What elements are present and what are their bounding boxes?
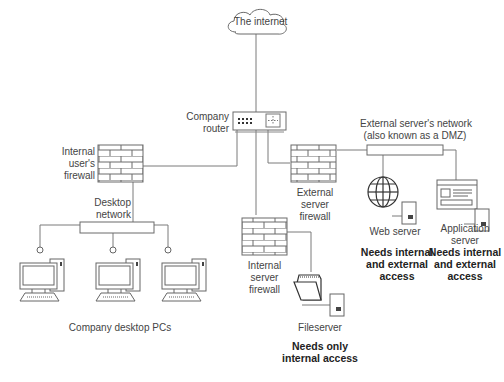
server-tower-icon [402,202,416,224]
dmz-label: External server's network (also known as… [360,118,470,142]
router-icon [233,112,286,132]
internal-user-firewall-label-line3: firewall [55,170,95,182]
router-label: Company router [185,111,229,135]
internal-server-firewall-label-line1: Internal [242,260,287,272]
desktop-pc-icon [20,247,64,301]
internal-user-firewall-label-line1: Internal [55,146,95,158]
server-tower-icon [330,294,344,316]
application-server-label-line1: Application [435,223,495,235]
desktop-pcs-label: Company desktop PCs [60,322,180,334]
application-server-access-line1: Needs internal [423,246,504,258]
internal-server-firewall-icon [242,218,287,255]
external-server-firewall-label-line1: External [293,187,337,199]
router-label-line1: Company [185,111,229,123]
internal-server-firewall-label-line3: firewall [242,284,287,296]
internet-label: The internet [234,16,280,28]
application-window-icon [437,180,477,209]
application-server-label: Application server [435,223,495,247]
external-server-firewall-label: External server firewall [293,187,337,223]
external-server-firewall-label-line3: firewall [293,211,337,223]
desktop-network-bus [80,222,154,233]
application-server-access-note: Needs internal and external access [423,246,504,282]
application-server-access-line3: access [423,270,504,282]
fileserver-access-note: Needs only internal access [270,340,370,364]
folder-icon [294,275,321,300]
dmz-bus [367,145,443,155]
fileserver-access-line1: Needs only [270,340,370,352]
dmz-label-line2: (also known as a DMZ) [360,130,470,142]
globe-icon [368,177,398,207]
desktop-network-label-line1: Desktop [90,197,131,209]
internal-server-firewall-label-line2: server [242,272,287,284]
fileserver-access-line2: internal access [270,352,370,364]
fileserver-label: Fileserver [290,322,350,334]
dmz-label-line1: External server's network [360,118,470,130]
internal-user-firewall-label-line2: user's [55,158,95,170]
internal-user-firewall-label: Internal user's firewall [55,146,95,182]
application-server-access-line2: and external [423,258,504,270]
desktop-pc-icon [96,247,140,301]
desktop-network-label-line2: network [90,209,131,221]
internal-server-firewall-label: Internal server firewall [242,260,287,296]
external-server-firewall-label-line2: server [293,199,337,211]
external-server-firewall-icon [291,145,336,182]
web-server-label: Web server [360,226,430,238]
internal-user-firewall-icon [98,145,143,182]
desktop-network-label: Desktop network [90,197,131,221]
desktop-pc-icon [162,247,206,301]
router-label-line2: router [185,123,229,135]
